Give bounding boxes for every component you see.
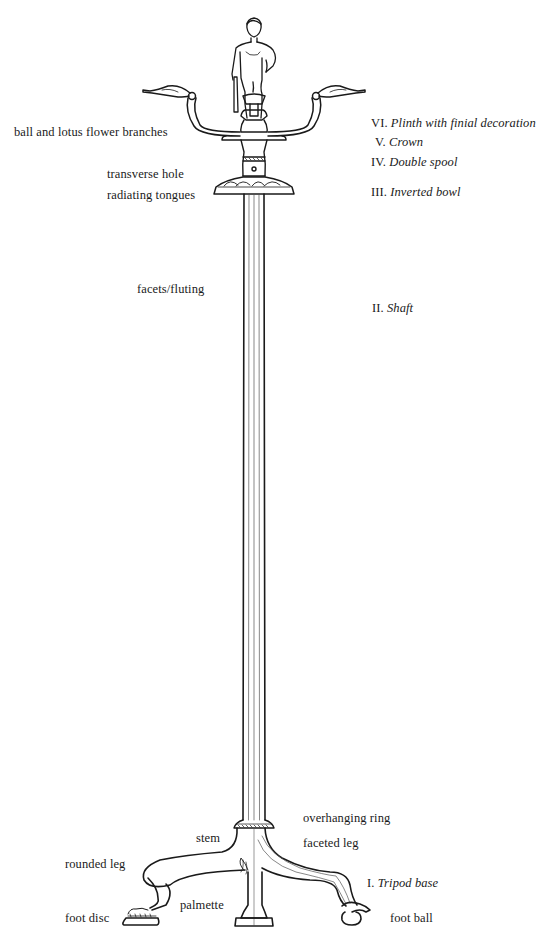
section-iv-double-spool: IV. Double spool bbox=[371, 156, 457, 169]
label-facets-fluting: facets/fluting bbox=[137, 283, 204, 296]
label-radiating-tongues: radiating tongues bbox=[107, 189, 195, 202]
section-numeral: I. bbox=[367, 876, 375, 890]
section-v-crown: V. Crown bbox=[375, 136, 423, 149]
label-rounded-leg: rounded leg bbox=[65, 858, 125, 871]
section-vi-plinth: VI. Plinth with finial decoration bbox=[371, 117, 536, 130]
overhanging-ring bbox=[234, 820, 274, 828]
section-numeral: V. bbox=[375, 135, 386, 149]
section-name: Plinth with finial decoration bbox=[391, 116, 536, 130]
label-ball-and-lotus-flower-branches: ball and lotus flower branches bbox=[14, 126, 168, 139]
label-faceted-leg: faceted leg bbox=[303, 837, 359, 850]
section-i-tripod-base: I. Tripod base bbox=[367, 877, 438, 890]
label-stem: stem bbox=[196, 832, 220, 845]
label-transverse-hole: transverse hole bbox=[107, 168, 184, 181]
section-iii-inverted-bowl: III. Inverted bowl bbox=[371, 186, 461, 199]
shaft bbox=[243, 194, 265, 820]
inverted-bowl bbox=[214, 177, 294, 194]
section-numeral: II. bbox=[372, 301, 384, 315]
plinth-with-finial bbox=[241, 94, 267, 132]
section-numeral: III. bbox=[371, 185, 387, 199]
section-name: Double spool bbox=[389, 155, 457, 169]
section-name: Tripod base bbox=[378, 876, 439, 890]
section-numeral: VI. bbox=[371, 116, 388, 130]
label-overhanging-ring: overhanging ring bbox=[303, 812, 390, 825]
label-foot-ball: foot ball bbox=[390, 912, 433, 925]
section-numeral: IV. bbox=[371, 155, 386, 169]
section-name: Inverted bowl bbox=[390, 185, 460, 199]
label-foot-disc: foot disc bbox=[65, 912, 109, 925]
section-name: Shaft bbox=[387, 301, 413, 315]
section-ii-shaft: II. Shaft bbox=[372, 302, 413, 315]
label-palmette: palmette bbox=[180, 899, 224, 912]
section-name: Crown bbox=[389, 135, 423, 149]
double-spool bbox=[241, 140, 267, 176]
statuette-figure bbox=[232, 18, 276, 118]
